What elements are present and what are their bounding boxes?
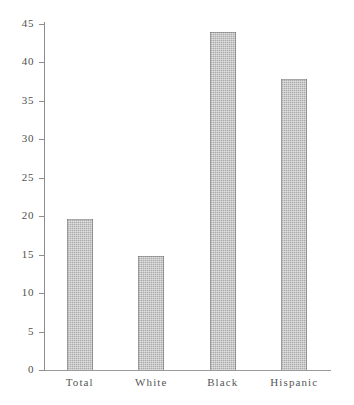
y-axis-tick-label-wrap: 0 — [0, 364, 34, 375]
y-axis-tick-label-wrap: 40 — [0, 56, 34, 67]
bar-white — [138, 256, 164, 370]
bar-black — [210, 32, 236, 370]
y-axis-tick-label: 5 — [4, 326, 34, 337]
y-axis-tick-label-wrap: 10 — [0, 287, 34, 298]
y-axis-tick-label-wrap: 20 — [0, 210, 34, 221]
y-axis-tick-label-wrap: 30 — [0, 133, 34, 144]
y-axis-tick-label: 30 — [4, 133, 34, 144]
y-axis-tick-label: 15 — [4, 249, 34, 260]
y-axis-tick-label: 0 — [4, 364, 34, 375]
bar-hispanic — [281, 79, 307, 370]
plot-area — [44, 24, 330, 370]
y-axis-tick-label: 25 — [4, 172, 34, 183]
y-axis-tick-label: 10 — [4, 287, 34, 298]
y-axis-tick — [39, 370, 45, 371]
y-axis-tick-label: 45 — [4, 18, 34, 29]
y-axis-tick-label: 40 — [4, 56, 34, 67]
y-axis-tick-label-wrap: 35 — [0, 95, 34, 106]
y-axis-tick-label-wrap: 15 — [0, 249, 34, 260]
bar-total — [67, 219, 93, 370]
y-axis-tick-label: 20 — [4, 210, 34, 221]
y-axis-tick-label-wrap: 5 — [0, 326, 34, 337]
y-axis-tick-label: 35 — [4, 95, 34, 106]
y-axis-tick-label-wrap: 25 — [0, 172, 34, 183]
x-axis-label-hispanic: Hispanic — [249, 376, 339, 388]
x-axis-line — [44, 370, 331, 371]
y-axis-tick-label-wrap: 45 — [0, 18, 34, 29]
bar-chart-figure: 051015202530354045 TotalWhiteBlackHispan… — [0, 0, 354, 405]
